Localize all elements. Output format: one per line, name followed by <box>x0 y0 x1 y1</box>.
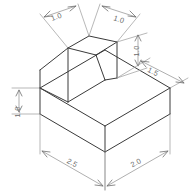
dim-label-top-right: 1.0 <box>112 13 125 25</box>
ext-line-top-left-b <box>78 4 89 36</box>
dim-label-upper-height: 1.0 <box>132 46 141 57</box>
ext-line-upper-h-a <box>117 33 147 42</box>
dim-line-width <box>42 151 103 186</box>
arrow-depth-start <box>141 61 149 67</box>
arrow-length-end <box>160 151 168 157</box>
arrow-depth-end <box>176 77 184 83</box>
isometric-drawing-svg: 1.0 1.0 1.0 1.5 <box>0 0 190 196</box>
ext-line-top-right-a <box>89 4 100 36</box>
arrow-length-start <box>107 180 115 186</box>
technical-drawing-canvas: 1.0 1.0 1.0 1.5 <box>0 0 190 196</box>
solid-body <box>40 36 170 152</box>
arrow-width-end <box>95 180 103 186</box>
dim-label-base-length: 2.0 <box>129 156 143 169</box>
dim-label-base-width: 2.5 <box>65 156 79 169</box>
dimension-top-right-depth: 1.0 <box>89 4 140 42</box>
dim-label-base-height: 1.0 <box>13 107 22 118</box>
arrow-width-start <box>42 151 50 157</box>
ext-line-depth-b <box>170 78 188 88</box>
dim-label-top-left: 1.0 <box>50 11 63 23</box>
dimension-base-height: 1.0 <box>12 88 40 117</box>
arrow-top-right-end <box>128 11 136 17</box>
